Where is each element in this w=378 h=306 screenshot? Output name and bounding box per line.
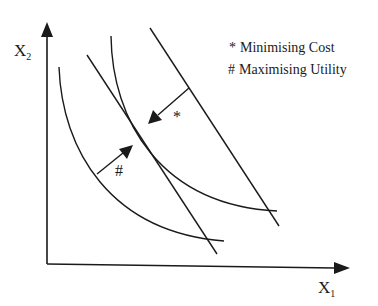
arrowhead-icon (148, 110, 162, 124)
x-axis-arrow-icon (334, 262, 350, 274)
cost-marker: * (173, 108, 181, 125)
diagram-canvas: X2 X1 * # *Minimising Cost #Maximising U… (0, 0, 378, 306)
cost-minimising-arrow (148, 88, 189, 124)
x-axis-label: X1 (318, 278, 335, 299)
x-axis (47, 262, 350, 274)
legend: *Minimising Cost #Maximising Utility (228, 40, 347, 77)
y-axis-label: X2 (14, 41, 31, 62)
y-axis (41, 22, 53, 264)
utility-marker: # (115, 162, 123, 179)
arrowhead-icon (119, 145, 133, 159)
lower-indifference-curve (59, 67, 224, 241)
y-axis-arrow-icon (41, 22, 53, 37)
legend-item-maximising-utility: #Maximising Utility (228, 62, 347, 77)
legend-item-minimising-cost: *Minimising Cost (229, 40, 335, 55)
outer-budget-line (150, 28, 279, 226)
